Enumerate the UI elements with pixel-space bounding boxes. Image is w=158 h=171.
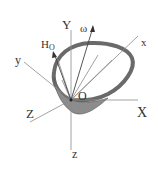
label-x-body: x bbox=[141, 36, 147, 48]
diagram-canvas: Y ω H O x y O X Z z bbox=[0, 0, 158, 171]
label-omega: ω bbox=[80, 22, 87, 34]
label-Z: Z bbox=[26, 106, 34, 121]
label-H-subscript: O bbox=[49, 43, 55, 52]
label-H: H bbox=[41, 38, 49, 50]
label-X: X bbox=[137, 105, 147, 120]
rigid-body-shape bbox=[54, 43, 133, 100]
label-y-body: y bbox=[15, 53, 21, 67]
label-z-body: z bbox=[72, 147, 77, 161]
label-O: O bbox=[78, 89, 87, 103]
omega-arrowhead-icon bbox=[90, 25, 95, 32]
Z-axis bbox=[30, 100, 71, 122]
H-arrowhead-icon bbox=[52, 51, 57, 58]
label-Y: Y bbox=[62, 17, 72, 32]
origin-point bbox=[70, 99, 73, 102]
